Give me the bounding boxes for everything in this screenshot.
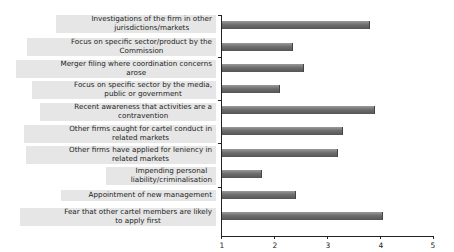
y-tick	[218, 15, 221, 16]
label-line: Appointment of new management	[89, 191, 212, 200]
x-tick	[433, 236, 434, 239]
x-tick	[327, 236, 328, 239]
label-line: contravention	[74, 112, 212, 121]
category-label: Merger filing where coordination concern…	[16, 60, 216, 78]
label-line: related markets	[69, 155, 212, 164]
category-label: Other firms caught for cartel conduct in…	[24, 125, 216, 143]
label-line: liability/criminalisation	[131, 176, 212, 185]
x-tick-label: 4	[379, 241, 384, 250]
label-line: Commission	[71, 47, 212, 56]
label-line: jurisdictions/markets	[91, 24, 212, 33]
category-label: Focus on specific sector by the media,pu…	[32, 81, 216, 99]
x-tick-label: 5	[431, 241, 436, 250]
y-tick	[218, 187, 221, 188]
bar	[222, 21, 370, 29]
label-line: related markets	[69, 134, 212, 143]
label-line: public or government	[74, 90, 212, 99]
bar	[222, 64, 304, 72]
x-tick-label: 3	[326, 241, 331, 250]
category-label: Impending personalliability/criminalisat…	[106, 167, 216, 185]
y-tick	[218, 143, 221, 144]
x-tick-label: 1	[220, 241, 225, 250]
bar	[222, 127, 343, 135]
bar	[222, 43, 293, 51]
category-label: Recent awareness that activities are aco…	[40, 103, 216, 121]
y-tick	[218, 57, 221, 58]
x-tick	[274, 236, 275, 239]
category-label: Investigations of the firm in otherjuris…	[56, 15, 216, 33]
bar	[222, 149, 338, 157]
label-line: to apply first	[64, 217, 212, 226]
category-label: Other firms have applied for leniency in…	[26, 146, 216, 164]
category-label: Appointment of new management	[61, 190, 216, 201]
label-line: arose	[60, 69, 212, 78]
y-tick	[218, 100, 221, 101]
bar	[222, 106, 375, 114]
bar	[222, 191, 296, 199]
bar	[222, 85, 280, 93]
x-tick	[380, 236, 381, 239]
bar	[222, 212, 383, 220]
category-label: Focus on specific sector/product by theC…	[27, 38, 216, 56]
category-label: Fear that other cartel members are likel…	[20, 208, 216, 226]
x-tick-label: 2	[273, 241, 278, 250]
x-tick	[221, 236, 222, 239]
bar	[222, 170, 262, 178]
